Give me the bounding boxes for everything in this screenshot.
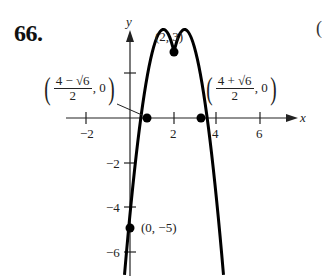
root-left-label: ( 4 − √6 2 , 0 ) [42,72,116,104]
open-paren: ( [44,72,50,104]
y-intercept-label: (0, −5) [141,220,177,235]
vertex-point [170,48,179,57]
fraction: 4 − √6 2 [54,74,92,103]
y-axis-label: y [124,14,132,29]
x-tick-label: −2 [80,126,94,141]
y-tick-label: −4 [106,200,120,215]
fraction-tail: , 0 [93,80,106,96]
graph: −2 2 4 6 −2 −4 −6 x y (2, 3) (0, −5) [0,0,322,276]
open-paren: ( [206,72,212,104]
fraction-denominator: 2 [231,89,238,103]
close-paren: ) [108,72,114,104]
y-tick-label: −2 [106,156,120,171]
y-intercept-point [126,224,135,233]
root-right-point [197,114,206,123]
fraction-tail: , 0 [255,80,268,96]
close-paren: ) [270,72,276,104]
x-axis-arrow-icon [286,114,298,122]
x-tick-label: 2 [170,126,177,141]
fraction-denominator: 2 [69,89,76,103]
fraction-numerator: 4 + √6 [216,74,254,89]
fraction: 4 + √6 2 [216,74,254,103]
parabola-curve [125,29,224,274]
y-tick-label: −6 [106,245,120,260]
x-tick-label: 4 [212,126,219,141]
root-left-point [143,114,152,123]
x-axis-label: x [299,110,306,125]
vertex-label: (2, 3) [155,29,183,44]
y-axis-arrow-icon [126,30,134,42]
fraction-numerator: 4 − √6 [54,74,92,89]
x-tick-label: 6 [256,126,263,141]
root-right-label: ( 4 + √6 2 , 0 ) [204,72,278,104]
